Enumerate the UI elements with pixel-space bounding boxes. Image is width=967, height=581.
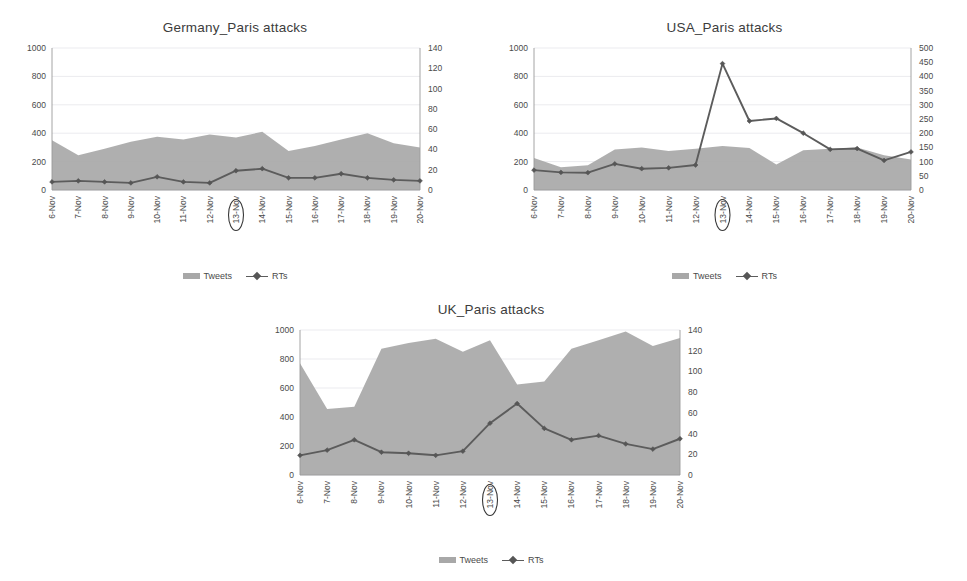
x-axis-tick-label: 15-Nov	[539, 480, 549, 508]
y-axis-right-tick-label: 60	[428, 124, 438, 134]
y-axis-left-tick-label: 0	[289, 470, 294, 480]
y-axis-right-tick-label: 150	[919, 142, 933, 152]
y-axis-right-tick-label: 500	[919, 43, 933, 53]
y-axis-left-tick-label: 200	[280, 441, 294, 451]
y-axis-left-tick-label: 0	[523, 185, 528, 195]
area-swatch-icon	[672, 273, 689, 279]
y-axis-right-tick-label: 400	[919, 71, 933, 81]
x-axis-tick-label: 6-Nov	[47, 195, 57, 218]
x-axis-tick-label: 19-Nov	[879, 195, 889, 223]
x-axis-tick-label: 10-Nov	[404, 480, 414, 508]
legend-item-tweets[interactable]: Tweets	[672, 271, 722, 281]
y-axis-right-tick-label: 140	[428, 43, 442, 53]
line-marker-swatch-icon	[736, 272, 758, 281]
x-axis-tick-label: 6-Nov	[529, 195, 539, 218]
x-axis-tick-label: 16-Nov	[566, 480, 576, 508]
x-axis-tick-label: 7-Nov	[556, 195, 566, 218]
y-axis-right-tick-label: 80	[428, 104, 438, 114]
series-area-tweets	[300, 331, 680, 475]
data-point-marker	[909, 150, 914, 155]
y-axis-right-tick-label: 0	[919, 185, 924, 195]
legend-item-rts[interactable]: RTs	[736, 271, 777, 281]
legend-label-rts: RTs	[272, 271, 287, 281]
x-axis-tick-label: 8-Nov	[583, 195, 593, 218]
chart-panel-usa: USA_Paris attacks 0200400600800100005010…	[482, 18, 967, 296]
x-axis-tick-label: 20-Nov	[906, 195, 916, 223]
y-axis-left-tick-label: 800	[514, 71, 528, 81]
plot-area-germany: 020040060080010000204060801001201406-Nov…	[0, 38, 470, 268]
x-axis-tick-label: 9-Nov	[126, 195, 136, 218]
chart-panel-uk: UK_Paris attacks 02004006008001000020406…	[246, 300, 736, 581]
x-axis-tick-label: 7-Nov	[322, 480, 332, 503]
x-axis-tick-label: 14-Nov	[257, 195, 267, 223]
x-axis-tick-label: 11-Nov	[664, 195, 674, 223]
x-axis-tick-label: 14-Nov	[744, 195, 754, 223]
x-axis-tick-label: 6-Nov	[295, 480, 305, 503]
x-axis-tick-label: 15-Nov	[771, 195, 781, 223]
x-axis-tick-label: 10-Nov	[152, 195, 162, 223]
y-axis-left-tick-label: 600	[32, 100, 46, 110]
chart-title-usa: USA_Paris attacks	[482, 18, 967, 38]
x-axis-tick-label: 16-Nov	[798, 195, 808, 223]
x-axis-tick-label: 20-Nov	[415, 195, 425, 223]
y-axis-right-tick-label: 0	[688, 470, 693, 480]
x-axis-tick-label: 11-Nov	[178, 195, 188, 223]
x-axis-tick-label: 15-Nov	[284, 195, 294, 223]
y-axis-left-tick-label: 200	[514, 157, 528, 167]
legend-label-tweets: Tweets	[204, 271, 233, 281]
x-axis-tick-label: 17-Nov	[336, 195, 346, 223]
x-axis-tick-label: 16-Nov	[310, 195, 320, 223]
x-axis-tick-label: 14-Nov	[512, 480, 522, 508]
x-axis-tick-label: 12-Nov	[691, 195, 701, 223]
y-axis-right-tick-label: 120	[688, 346, 702, 356]
y-axis-left-tick-label: 200	[32, 157, 46, 167]
chart-legend-uk: Tweets RTs	[246, 555, 736, 565]
x-axis-tick-label: 11-Nov	[431, 480, 441, 508]
y-axis-right-tick-label: 20	[428, 165, 438, 175]
chart-svg-germany: 020040060080010000204060801001201406-Nov…	[0, 38, 470, 268]
x-axis-tick-label: 18-Nov	[852, 195, 862, 223]
y-axis-left-tick-label: 0	[41, 185, 46, 195]
y-axis-right-tick-label: 100	[688, 366, 702, 376]
x-axis-tick-label: 8-Nov	[349, 480, 359, 503]
plot-area-uk: 020040060080010000204060801001201406-Nov…	[246, 320, 736, 552]
x-axis-tick-label: 12-Nov	[458, 480, 468, 508]
y-axis-right-tick-label: 50	[919, 171, 929, 181]
y-axis-right-tick-label: 140	[688, 325, 702, 335]
y-axis-left-tick-label: 400	[514, 128, 528, 138]
x-axis-tick-label: 17-Nov	[825, 195, 835, 223]
area-swatch-icon	[183, 273, 200, 279]
plot-area-usa: 0200400600800100005010015020025030035040…	[482, 38, 967, 268]
chart-svg-usa: 0200400600800100005010015020025030035040…	[482, 38, 967, 268]
x-axis-tick-label: 8-Nov	[100, 195, 110, 218]
y-axis-left-tick-label: 1000	[27, 43, 46, 53]
line-marker-swatch-icon	[502, 556, 524, 565]
y-axis-right-tick-label: 120	[428, 63, 442, 73]
y-axis-left-tick-label: 800	[32, 71, 46, 81]
chart-title-uk: UK_Paris attacks	[246, 300, 736, 320]
y-axis-right-tick-label: 40	[688, 429, 698, 439]
legend-item-rts[interactable]: RTs	[502, 555, 543, 565]
legend-item-tweets[interactable]: Tweets	[183, 271, 233, 281]
x-axis-tick-label: 9-Nov	[610, 195, 620, 218]
legend-label-tweets: Tweets	[693, 271, 722, 281]
y-axis-left-tick-label: 1000	[275, 325, 294, 335]
y-axis-left-tick-label: 1000	[509, 43, 528, 53]
x-axis-tick-label: 18-Nov	[621, 480, 631, 508]
y-axis-left-tick-label: 800	[280, 354, 294, 364]
y-axis-right-tick-label: 40	[428, 144, 438, 154]
y-axis-right-tick-label: 60	[688, 408, 698, 418]
legend-item-rts[interactable]: RTs	[246, 271, 287, 281]
y-axis-right-tick-label: 250	[919, 114, 933, 124]
legend-item-tweets[interactable]: Tweets	[439, 555, 489, 565]
x-axis-tick-label: 19-Nov	[389, 195, 399, 223]
y-axis-left-tick-label: 600	[280, 383, 294, 393]
x-axis-tick-label: 9-Nov	[376, 480, 386, 503]
x-axis-tick-label: 18-Nov	[362, 195, 372, 223]
chart-legend-germany: Tweets RTs	[0, 271, 470, 281]
series-area-tweets	[534, 146, 911, 190]
y-axis-right-tick-label: 300	[919, 100, 933, 110]
y-axis-right-tick-label: 80	[688, 387, 698, 397]
x-axis-tick-label: 19-Nov	[648, 480, 658, 508]
x-axis-tick-label: 12-Nov	[205, 195, 215, 223]
